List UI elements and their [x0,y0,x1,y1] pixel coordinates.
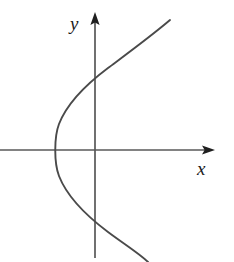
y-axis-label: y [68,13,79,34]
figure-container: y x [0,0,234,262]
x-axis-label: x [196,158,206,179]
parabola-figure: y x [0,0,234,262]
figure-background [0,0,234,262]
